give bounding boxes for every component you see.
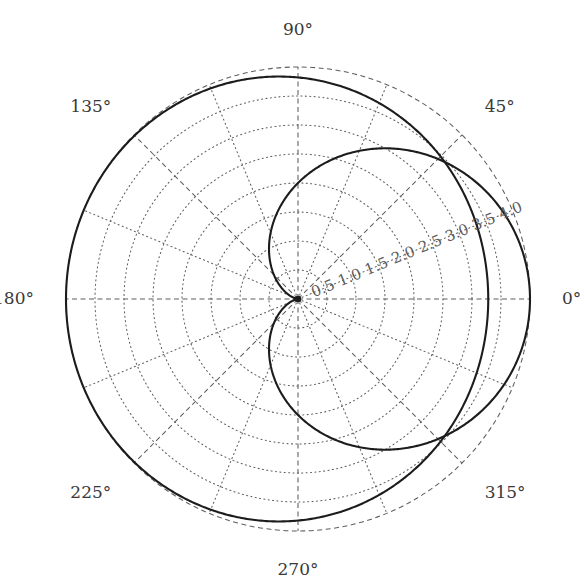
grid-spoke-337.5deg	[298, 299, 512, 388]
angle-tick-label-45: 45°	[485, 96, 515, 116]
grid-spoke-202.5deg	[84, 299, 298, 388]
grid-spoke-157.5deg	[84, 210, 298, 299]
angle-tick-label-225: 225°	[70, 482, 111, 502]
grid-spoke-112.5deg	[209, 85, 298, 299]
grid-spoke-292.5deg	[298, 299, 387, 513]
radial-tick-label-3.5: 3.5	[469, 209, 498, 235]
polar-chart-figure: 0.51.01.52.02.53.03.54.0 0°45°90°135°180…	[0, 0, 585, 582]
origin-marker	[295, 296, 301, 302]
angle-tick-label-0: 0°	[562, 288, 581, 308]
radial-tick-label-1.5: 1.5	[362, 253, 391, 279]
angle-tick-label-180: 180°	[0, 288, 34, 308]
grid-spoke-247.5deg	[209, 299, 298, 513]
polar-plot-canvas: 0.51.01.52.02.53.03.54.0 0°45°90°135°180…	[0, 0, 585, 582]
radial-tick-label-2.5: 2.5	[416, 231, 445, 257]
angle-tick-label-270: 270°	[278, 559, 319, 579]
angle-tick-label-135: 135°	[70, 96, 111, 116]
angle-tick-label-90: 90°	[283, 19, 313, 39]
radial-tick-label-3.0: 3.0	[442, 220, 471, 246]
radial-tick-label-1.0: 1.0	[335, 264, 364, 290]
radial-tick-label-0.5: 0.5	[308, 275, 337, 301]
radial-tick-label-4.0: 4.0	[496, 198, 525, 224]
radial-tick-label-2.0: 2.0	[389, 242, 418, 268]
angle-tick-label-315: 315°	[485, 482, 526, 502]
